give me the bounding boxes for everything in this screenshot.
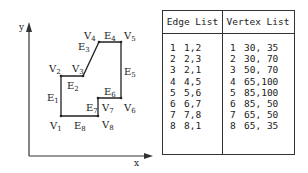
edge-label-2: E2 [67, 81, 79, 94]
edge-row: 11,2 [163, 42, 222, 53]
edge-label-4: E4 [104, 31, 116, 44]
edge-label-6: E6 [104, 87, 116, 100]
edge-row: 77,8 [163, 109, 222, 120]
edge-row: 32,1 [163, 64, 222, 75]
edge-label-7: E7 [86, 103, 98, 116]
vertex-label-2: V2 [49, 64, 61, 77]
vertex-label-1: V1 [50, 121, 62, 134]
edge-label-8: E8 [74, 121, 86, 134]
polygon-diagram: y x V1 V2 V3 V4 V5 V6 V7 V8 E1 E2 E3 E4 … [0, 0, 160, 173]
vertex-list-header: Vertex List [222, 11, 294, 34]
y-axis-label: y [19, 22, 24, 32]
edge-row: 22,3 [163, 53, 222, 64]
edge-label-5: E5 [124, 67, 136, 80]
vertex-label-6: V6 [124, 103, 136, 116]
edge-row: 88,1 [163, 120, 222, 131]
x-axis-label: x [134, 158, 139, 168]
edge-label-1: E1 [47, 93, 59, 106]
edge-row: 55,6 [163, 87, 222, 98]
vertex-label-8: V8 [102, 120, 114, 133]
vertex-label-7: V7 [102, 103, 114, 116]
vertex-row: 685, 50 [222, 98, 294, 109]
vertex-row: 350, 70 [222, 64, 294, 75]
vertex-list-column: Vertex List 130, 35 230, 70 350, 70 465,… [222, 11, 294, 154]
vertex-row: 130, 35 [222, 42, 294, 53]
vertex-row: 465,100 [222, 76, 294, 87]
vertex-row: 585,100 [222, 87, 294, 98]
edge-vertex-table: Edge List 11,2 22,3 32,1 44,5 55,6 66,7 … [162, 10, 295, 155]
vertex-label-5: V5 [124, 31, 136, 44]
edge-list-header: Edge List [163, 11, 222, 34]
vertex-label-3: V3 [72, 64, 84, 77]
edge-row: 44,5 [163, 76, 222, 87]
edge-label-3: E3 [78, 42, 90, 55]
vertex-row: 230, 70 [222, 53, 294, 64]
vertex-row: 765, 50 [222, 109, 294, 120]
edge-list-column: Edge List 11,2 22,3 32,1 44,5 55,6 66,7 … [163, 11, 223, 154]
edge-row: 66,7 [163, 98, 222, 109]
vertex-row: 865, 35 [222, 120, 294, 131]
